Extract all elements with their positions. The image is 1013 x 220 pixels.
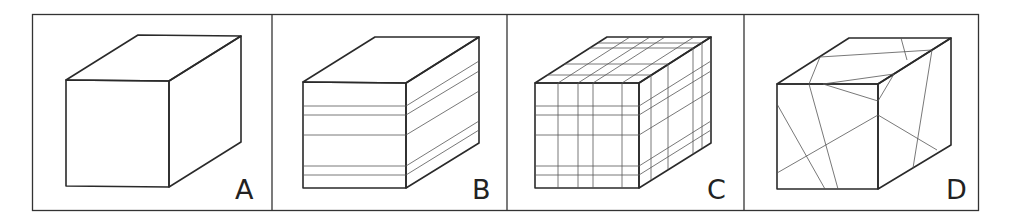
panel-label-a: A	[235, 174, 254, 205]
block-diagram: A B	[0, 0, 1013, 220]
panel-a-cube	[66, 35, 241, 187]
panel-d-cube	[777, 38, 951, 189]
panel-b-cube	[303, 37, 479, 188]
panel-c-cube	[535, 37, 711, 188]
figure-frame	[33, 15, 979, 211]
panel-label-d: D	[946, 174, 967, 205]
panel-label-b: B	[472, 174, 491, 205]
panel-label-c: C	[707, 174, 726, 205]
